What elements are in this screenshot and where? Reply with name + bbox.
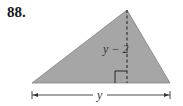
height-label: y − 2: [102, 42, 128, 56]
arrowhead-left-icon: [33, 93, 38, 97]
triangle-figure: y − 2 y: [0, 0, 183, 106]
arrowhead-right-icon: [164, 93, 169, 97]
triangle-shape: [32, 10, 170, 83]
base-label: y: [96, 88, 103, 102]
